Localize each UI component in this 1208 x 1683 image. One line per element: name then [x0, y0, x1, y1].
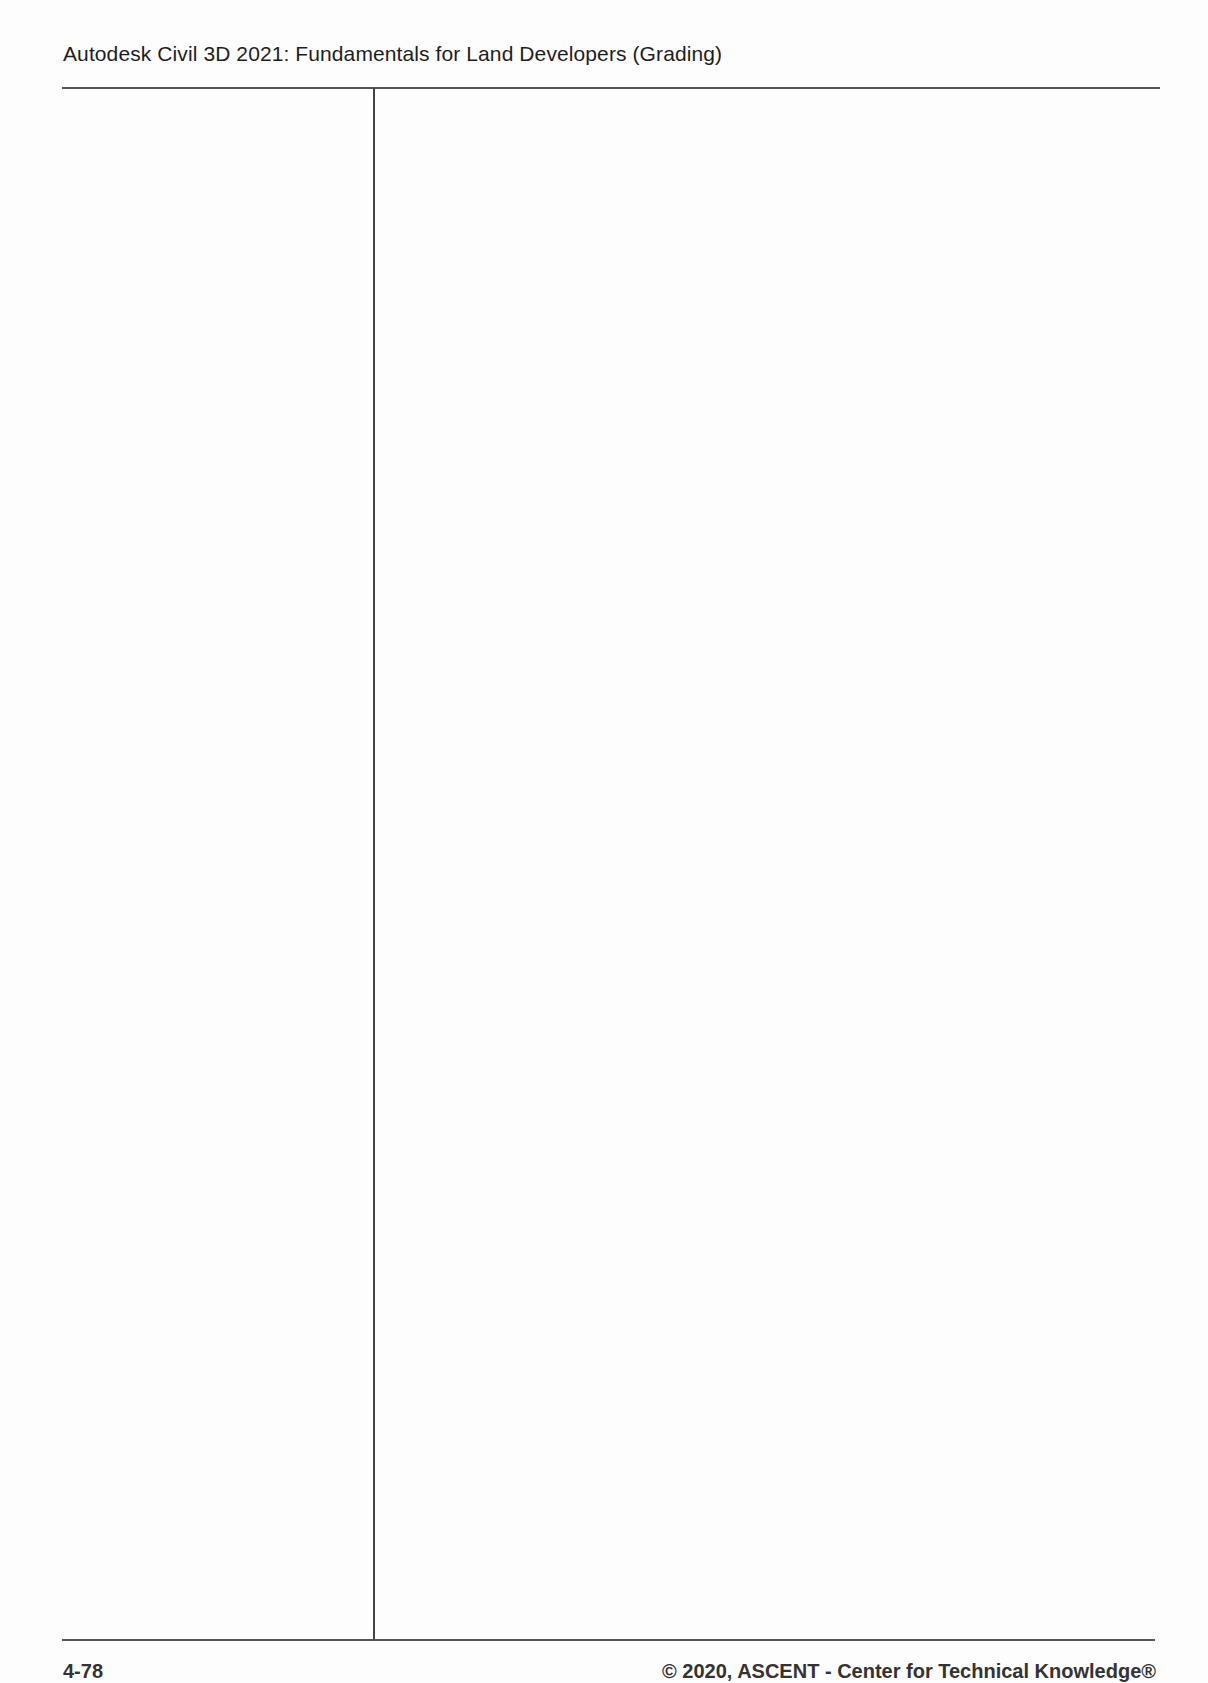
copyright-notice: © 2020, ASCENT - Center for Technical Kn…	[662, 1660, 1156, 1683]
footer-rule	[62, 1639, 1155, 1641]
page-header-title: Autodesk Civil 3D 2021: Fundamentals for…	[63, 42, 722, 66]
main-content-column	[375, 89, 1160, 1639]
side-notes-column	[62, 89, 373, 1639]
page-number: 4-78	[63, 1660, 103, 1683]
